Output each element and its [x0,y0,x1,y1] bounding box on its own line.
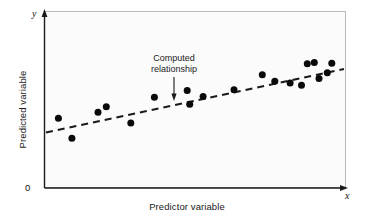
plot-frame [45,12,346,188]
plot-canvas [0,0,374,224]
data-point [328,60,335,67]
data-point [151,94,158,101]
data-point [324,69,331,76]
data-point [259,71,266,78]
data-point [186,101,193,108]
data-point [103,103,110,110]
data-point [311,59,318,66]
data-point [287,79,294,86]
scatter-plot-figure: Predicted variable Predictor variable y … [0,0,374,224]
y-axis-letter: y [32,8,36,19]
data-point [184,87,191,94]
x-axis-title: Predictor variable [107,201,267,212]
data-point [127,119,134,126]
y-axis-title: Predicted variable [17,50,28,170]
data-point [95,109,102,116]
data-point [55,115,62,122]
data-point [304,60,311,67]
origin-label: 0 [25,182,30,193]
data-point [298,82,305,89]
computed-relationship-annotation: Computed relationship [126,53,222,75]
data-point [316,75,323,82]
x-axis-letter: x [345,190,349,201]
data-point [231,86,238,93]
data-point [271,78,278,85]
data-point [200,93,207,100]
data-point [68,135,75,142]
